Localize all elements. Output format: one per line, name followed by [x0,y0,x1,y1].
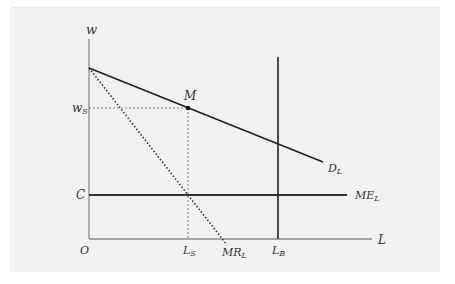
point-m [186,106,190,110]
me-label: MEL [354,189,380,203]
c-label: C [76,188,85,202]
demand-label: DL [327,162,342,176]
lb-label: LB [271,244,285,258]
demand-curve [89,68,323,162]
ls-label: LS [182,244,196,258]
origin-label: O [80,244,89,257]
mr-label: MRL [221,246,247,260]
labor-market-diagram: w L O M wS C LS LB DL MEL MRL [0,0,455,284]
y-axis-label: w [86,22,97,37]
x-axis-label: L [377,233,386,247]
point-m-label: M [183,89,197,103]
mr-curve [89,68,227,245]
ws-label: wS [72,101,88,116]
